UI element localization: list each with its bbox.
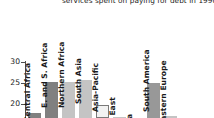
y-tick-label-wrap: 25 <box>0 79 20 87</box>
chart-figure: services spent on paying for debt in 199… <box>0 0 214 118</box>
y-tick-label-wrap: 30 <box>0 58 20 66</box>
y-tick-label: 25 <box>0 79 20 87</box>
plot-area: 302520 Central AfricaE. and S. AfricaNor… <box>0 0 214 118</box>
y-tick-label: 20 <box>0 100 20 108</box>
category-label-e-and-s-africa: E. and S. Africa <box>41 43 49 108</box>
category-label-central-africa: Central Africa <box>24 63 32 118</box>
category-label-south-america: South America <box>143 49 151 112</box>
category-label-eastern-europe: Eastern Europe <box>160 60 168 118</box>
y-tick-label: 30 <box>0 58 20 66</box>
category-label-south-asia: South Asia <box>75 58 83 104</box>
category-label-asia-pacific: Asia-Pacific <box>92 63 100 112</box>
y-tick-label-wrap: 20 <box>0 100 20 108</box>
category-label-middle-east: le East <box>109 97 117 118</box>
category-label-central-asia: sia <box>126 114 134 118</box>
category-label-northern-africa: Northern Africa <box>58 42 66 108</box>
